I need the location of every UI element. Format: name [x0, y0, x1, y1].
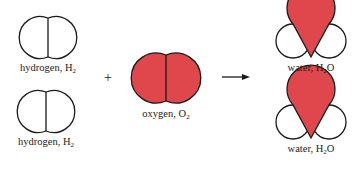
label-oxygen: oxygen, O2 — [142, 108, 189, 121]
formula-base: H — [316, 143, 324, 154]
molecule-name: water — [288, 62, 311, 73]
reaction-arrow-icon — [222, 74, 250, 80]
formula-tail: O — [327, 62, 335, 73]
molecule-name: hydrogen — [20, 62, 60, 73]
molecule-name: hydrogen — [18, 136, 58, 147]
plus-sign: + — [104, 70, 112, 86]
label-hydrogen-top: hydrogen, H2 — [20, 62, 76, 75]
hydrogen-molecule-bottom — [17, 90, 75, 132]
formula-base: H — [65, 62, 73, 73]
label-hydrogen-bottom: hydrogen, H2 — [18, 136, 74, 149]
formula-subscript: 2 — [73, 67, 77, 75]
oxygen-molecule — [131, 53, 201, 103]
water-molecule-bottom — [276, 65, 346, 139]
water-molecule-top — [276, 0, 346, 58]
label-water-bottom: water, H2O — [288, 143, 335, 156]
molecule-name: oxygen — [142, 108, 173, 119]
formula-subscript: 2 — [186, 113, 190, 121]
formula-base: H — [63, 136, 71, 147]
hydrogen-molecule-top — [19, 16, 77, 58]
molecule-name: water — [288, 143, 311, 154]
formula-tail: O — [327, 143, 335, 154]
formula-subscript: 2 — [71, 141, 75, 149]
formula-base: O — [179, 108, 187, 119]
formula-base: H — [316, 62, 324, 73]
label-water-top: water, H2O — [288, 62, 335, 75]
